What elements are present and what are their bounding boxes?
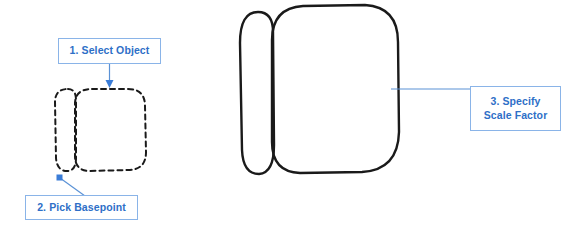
callout-specify-scale-factor[interactable]: 3. Specify Scale Factor (470, 86, 561, 131)
diagram-canvas: 1. Select Object 2. Pick Basepoint 3. Sp… (0, 0, 574, 230)
basepoint-marker-icon[interactable] (57, 175, 63, 181)
callout-pick-basepoint-label: 2. Pick Basepoint (37, 201, 126, 214)
scaled-object-sliver (240, 12, 274, 174)
selected-object-sliver (55, 89, 76, 171)
selected-object-dashed[interactable] (55, 89, 146, 171)
arrow-down-icon (106, 80, 114, 88)
leader-pick-basepoint (57, 175, 86, 197)
scaled-object-body (272, 5, 399, 173)
leader-select-object (106, 64, 114, 88)
callout-specify-scale-factor-label: 3. Specify Scale Factor (484, 95, 548, 121)
leader-line-pick-basepoint (60, 178, 85, 196)
callout-pick-basepoint[interactable]: 2. Pick Basepoint (25, 195, 138, 220)
callout-select-object-label: 1. Select Object (70, 44, 150, 57)
scaled-object-solid[interactable] (240, 5, 399, 174)
selected-object-body (75, 89, 146, 171)
callout-select-object[interactable]: 1. Select Object (58, 38, 161, 64)
